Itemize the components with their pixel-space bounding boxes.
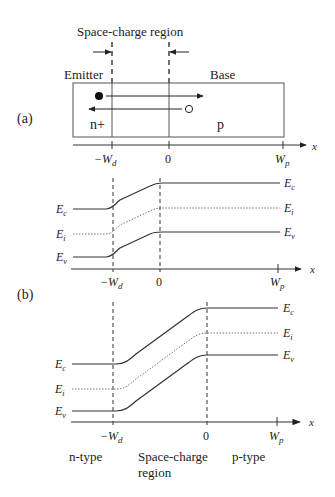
tick-zero: 0 [203,429,209,443]
x-axis-label: x [311,140,317,152]
ei-right-label: Ei [283,201,294,217]
ei-band [73,208,280,234]
space-charge-title: Space-charge region [77,24,184,39]
ec-band [73,183,280,209]
tick-neg-wd: −Wd [94,152,117,168]
panel-a-label: (a) [17,111,33,127]
tick-zero: 0 [165,152,171,166]
ev-right-label: Ev [283,225,295,241]
hole-icon [185,105,192,112]
tick-zero: 0 [156,275,162,289]
panel-equilibrium: Ec Ei Ev Ec Ei Ev x −Wd 0 Wp [55,176,315,291]
panel-b: (b) Ec Ei Ev Ec Ei Ev x −Wd 0 Wp n-type … [17,287,314,480]
ei-left-label: Ei [54,382,65,398]
ei-left-label: Ei [55,227,66,243]
ev-left-label: Ev [54,404,66,420]
tick-neg-wd: −Wd [100,275,123,291]
p-type-label: p-type [232,449,265,464]
ec-left-label: Ec [55,202,67,218]
emitter-label: Emitter [64,67,104,82]
base-label: Base [210,67,236,82]
n-region-label: n+ [90,117,105,132]
ev-right-label: Ev [282,348,294,364]
n-type-label: n-type [69,449,102,464]
x-axis-label: x [308,416,314,428]
space-charge-label: Space-charge [138,449,208,464]
ec-right-label: Ec [283,176,295,192]
space-charge-label-line2: region [138,465,172,480]
ec-right-label: Ec [282,301,294,317]
panel-a: Space-charge region Emitter Base n+ p (a… [17,24,317,168]
band-diagram: Space-charge region Emitter Base n+ p (a… [0,0,335,497]
ei-right-label: Ei [282,326,293,342]
p-region-label: p [217,117,224,132]
electron-icon [95,92,103,100]
ec-left-label: Ec [54,357,66,373]
tick-wp: Wp [269,429,284,445]
tick-wp: Wp [275,152,290,168]
ei-band [72,333,278,389]
x-axis-label: x [309,263,315,275]
tick-neg-wd: −Wd [100,429,123,445]
ev-left-label: Ev [55,250,67,266]
panel-b-label: (b) [17,287,34,303]
tick-wp: Wp [270,275,285,291]
ev-band [73,232,280,257]
